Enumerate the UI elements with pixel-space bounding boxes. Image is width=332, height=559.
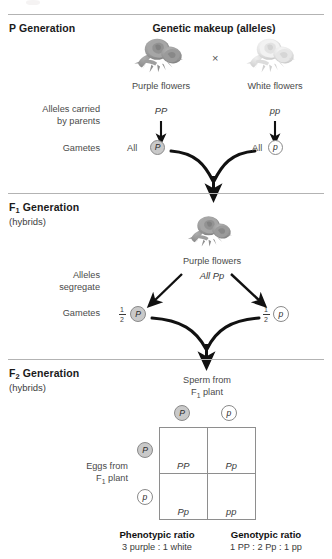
cross-symbol: × — [212, 52, 218, 64]
f1-generation-title: F1 Generation — [9, 201, 79, 213]
p-gen-alleles-carried-line2: by parents — [57, 116, 100, 126]
f1-left-gamete-fraction: 1 2 — [117, 306, 127, 323]
punnett-square: PP Pp Pp pp — [159, 427, 256, 520]
sperm-source-label: Sperm from F1 plant — [160, 375, 254, 401]
sperm-allele-circle-p: p — [221, 405, 237, 421]
punnett-cell-Pp-1: Pp — [208, 428, 256, 474]
f1-right-gamete-circle: p — [273, 306, 289, 322]
egg-source-line2-rest: plant — [106, 473, 128, 483]
egg-source-label: Eggs from F1 plant — [60, 461, 128, 487]
egg-source-line2: F1 plant — [96, 473, 128, 483]
f2-generation-title-subscript: 2 — [16, 372, 20, 381]
p-gen-right-fusion-curve — [214, 151, 255, 181]
p-generation-title: P Generation — [9, 22, 75, 34]
f1-gen-purple-flower-image — [188, 216, 233, 246]
f1-right-gamete-fraction-denominator: 2 — [261, 316, 271, 324]
f1-purple-flower-label: Purple flowers — [167, 256, 257, 268]
egg-allele-circle-P: P — [137, 442, 153, 458]
top-artifact — [26, 0, 40, 5]
f2-generation-subtitle: (hybrids) — [9, 382, 46, 393]
f2-generation-title: F2 Generation — [9, 367, 79, 379]
p-gen-white-genotype: pp — [230, 105, 320, 116]
egg-source-line1: Eggs from — [86, 461, 128, 471]
f1-left-fusion-curve — [152, 318, 206, 349]
p-gen-left-gamete-quantity: All — [127, 143, 137, 155]
punnett-cell-Pp-1-genotype: Pp — [226, 460, 237, 471]
section-divider-top — [8, 14, 324, 15]
f2-generation-title-rest: Generation — [20, 367, 79, 379]
sperm-source-line2-rest: plant — [200, 387, 222, 397]
genotypic-ratio-header: Genotypic ratio — [212, 529, 320, 540]
f1-left-gamete-fraction-numerator: 1 — [117, 306, 127, 314]
p-gen-purple-flower-label: Purple flowers — [116, 81, 206, 93]
p-gen-alleles-carried-label: Alleles carried by parents — [14, 104, 100, 127]
p-gen-right-gamete-quantity: All — [252, 143, 262, 155]
p-gen-white-flower-image — [246, 39, 296, 72]
f1-right-gamete-fraction-numerator: 1 — [261, 306, 271, 314]
section-divider-f1-f2 — [8, 359, 324, 360]
f1-generation-subtitle: (hybrids) — [9, 216, 46, 227]
punnett-cell-pp-genotype: pp — [226, 506, 236, 517]
punnett-cell-Pp-2-genotype: Pp — [178, 506, 189, 517]
phenotypic-ratio-header: Phenotypic ratio — [103, 529, 211, 540]
genetic-makeup-header: Genetic makeup (alleles) — [118, 22, 310, 34]
p-gen-left-gamete-circle: P — [150, 140, 165, 155]
punnett-cell-Pp-2: Pp — [160, 474, 208, 520]
f2-generation-title-letter: F — [9, 367, 16, 379]
p-gen-gametes-label: Gametes — [14, 143, 100, 155]
f1-generation-title-subscript: 1 — [16, 206, 20, 215]
p-gen-white-flower-label: White flowers — [230, 81, 320, 93]
punnett-cell-PP-genotype: PP — [177, 460, 190, 471]
f1-alleles-segregate-line1: Alleles — [73, 270, 100, 280]
p-gen-left-fusion-curve — [171, 151, 213, 181]
f1-genotype-label: All Pp — [167, 270, 257, 281]
section-divider-p-f1 — [8, 193, 324, 194]
f1-alleles-segregate-label: Alleles segregate — [14, 270, 100, 293]
sperm-allele-circle-P: P — [174, 405, 190, 421]
sperm-source-line1: Sperm from — [183, 375, 231, 385]
f1-gametes-label: Gametes — [14, 308, 100, 320]
f1-right-gamete-fraction: 1 2 — [261, 306, 271, 323]
genotypic-ratio-value: 1 PP : 2 Pp : 1 pp — [212, 542, 320, 552]
p-gen-right-gamete-circle: p — [268, 140, 283, 155]
mendelian-inheritance-diagram: P Generation Genetic makeup (alleles) × … — [0, 0, 332, 559]
f1-left-gamete-fraction-denominator: 2 — [117, 316, 127, 324]
punnett-cell-pp: pp — [208, 474, 256, 520]
f1-alleles-segregate-line2: segregate — [59, 282, 100, 292]
f1-generation-title-rest: Generation — [20, 201, 79, 213]
sperm-source-line2: F1 plant — [191, 387, 223, 397]
f1-generation-title-letter: F — [9, 201, 16, 213]
punnett-cell-PP: PP — [160, 428, 208, 474]
egg-allele-circle-p: p — [137, 489, 153, 505]
f1-right-fusion-curve — [207, 318, 259, 349]
f1-left-gamete-circle: P — [130, 306, 146, 322]
p-gen-alleles-carried-line1: Alleles carried — [42, 104, 100, 114]
p-gen-purple-genotype: PP — [116, 105, 206, 116]
p-gen-purple-flower-image — [134, 39, 184, 72]
phenotypic-ratio-value: 3 purple : 1 white — [103, 542, 211, 552]
